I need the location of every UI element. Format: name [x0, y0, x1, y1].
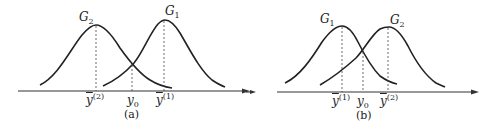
- label-g1-a: G1: [165, 5, 180, 20]
- panel-b: [246, 26, 479, 95]
- curve-g1-b: [285, 26, 397, 84]
- axis-arrow-a-icon: [242, 89, 250, 94]
- panel-a: [18, 20, 250, 94]
- caption-a: (a): [124, 109, 139, 120]
- label-g2-b: G2: [390, 14, 405, 29]
- curve-g2-a: [40, 25, 172, 88]
- figure: G2 G1 y(2) y0 y(1) (a) G1 G2 y(1) y0 y(2…: [0, 0, 491, 127]
- diagram-canvas: [0, 0, 491, 127]
- tick-mean2-b: y(2): [380, 94, 398, 107]
- axis-stub-arrow-icon: [250, 90, 256, 94]
- label-g1-b: G1: [320, 13, 335, 28]
- tick-mean2-a: y(2): [86, 93, 104, 106]
- label-g2-a: G2: [79, 11, 94, 26]
- axis-arrow-b-icon: [471, 90, 479, 95]
- tick-mean1-a: y(1): [156, 93, 174, 106]
- caption-b: (b): [356, 110, 372, 121]
- tick-mean1-b: y(1): [332, 94, 350, 107]
